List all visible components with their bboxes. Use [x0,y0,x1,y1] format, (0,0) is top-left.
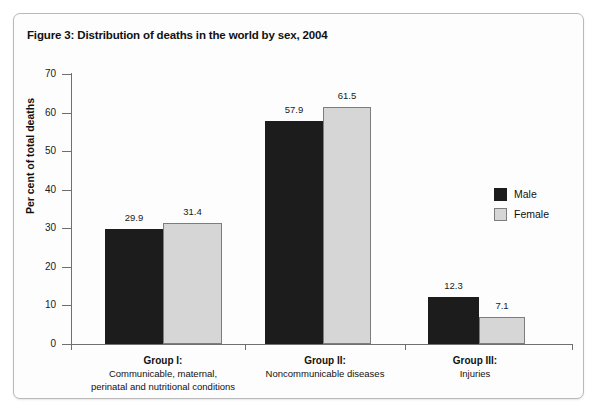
x-group-label-2-head: Group II: [240,354,410,367]
x-group-label-2-line1: Noncommunicable diseases [240,367,410,380]
x-group-label-1: Group I: Communicable, maternal, perinat… [73,354,253,393]
legend-label-male: Male [514,188,537,200]
bar-value-group2-male: 57.9 [264,105,324,115]
bar-group1-male[interactable] [105,229,163,344]
bar-value-group1-male: 29.9 [104,213,164,223]
x-group-label-1-head: Group I: [73,354,253,367]
x-group-label-3-head: Group III: [405,354,545,367]
x-axis-line [71,344,573,345]
bar-value-group1-female: 31.4 [163,207,222,217]
bar-group1-female[interactable] [163,223,222,344]
x-group-label-1-line1: Communicable, maternal, [73,367,253,380]
y-tick-label-20: 20 [20,262,56,272]
y-tick-label-70: 70 [20,69,56,79]
legend-swatch-male-icon [494,188,507,201]
legend-item-female[interactable]: Female [494,207,580,221]
x-tick-mark-0 [71,344,72,350]
y-tick-label-30: 30 [20,223,56,233]
y-tick-mark-10 [62,305,72,306]
y-tick-label-10: 10 [20,300,56,310]
bar-value-group3-male: 12.3 [427,281,480,291]
y-tick-mark-30 [62,228,72,229]
bar-group2-male[interactable] [265,121,323,344]
figure-title: Figure 3: Distribution of deaths in the … [27,29,328,41]
y-tick-label-60: 60 [20,108,56,118]
x-tick-mark-3 [572,344,573,350]
bar-value-group3-female: 7.1 [478,301,526,311]
bar-group2-female[interactable] [323,107,371,344]
y-tick-mark-50 [62,151,72,152]
x-group-label-2: Group II: Noncommunicable diseases [240,354,410,380]
x-group-label-3: Group III: Injuries [405,354,545,380]
y-tick-label-40: 40 [20,185,56,195]
y-tick-label-50: 50 [20,146,56,156]
figure-container: Figure 3: Distribution of deaths in the … [0,0,599,418]
x-tick-mark-1 [245,344,246,350]
bar-group3-male[interactable] [428,297,479,344]
chart-legend: Male Female [494,187,580,227]
y-tick-mark-60 [62,113,72,114]
bar-group3-female[interactable] [479,317,525,344]
legend-item-male[interactable]: Male [494,187,580,201]
bar-value-group2-female: 61.5 [322,91,372,101]
legend-label-female: Female [514,208,549,220]
legend-swatch-female-icon [494,208,507,221]
y-axis-title: Per cent of total deaths [24,86,36,226]
y-tick-label-0: 0 [20,339,56,349]
x-group-label-1-line2: perinatal and nutritional conditions [73,380,253,393]
y-tick-mark-70 [62,74,72,75]
y-tick-mark-40 [62,190,72,191]
x-tick-mark-2 [405,344,406,350]
y-tick-mark-20 [62,267,72,268]
x-group-label-3-line1: Injuries [405,367,545,380]
